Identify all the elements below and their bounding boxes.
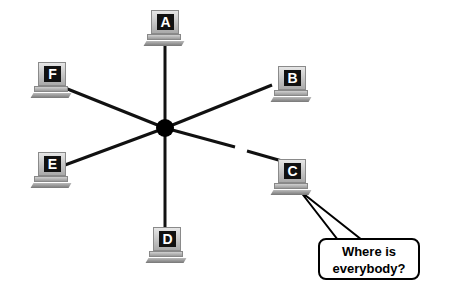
keyboard-icon <box>271 190 312 195</box>
base-icon <box>34 176 68 182</box>
hub-icon <box>156 119 174 137</box>
node-label: D <box>159 231 176 247</box>
node-label: E <box>44 156 61 172</box>
computer-b: B <box>272 66 312 106</box>
node-label: A <box>157 14 174 30</box>
computer-a: A <box>145 10 185 50</box>
monitor-icon: B <box>278 66 306 90</box>
node-label: C <box>284 163 301 179</box>
base-icon <box>149 251 183 257</box>
monitor-icon: D <box>153 227 181 251</box>
keyboard-icon <box>144 41 185 46</box>
keyboard-icon <box>31 93 72 98</box>
base-icon <box>274 183 308 189</box>
link-e <box>65 128 165 165</box>
base-icon <box>274 90 308 96</box>
keyboard-icon <box>31 183 72 188</box>
computer-d: D <box>147 227 187 267</box>
monitor-icon: E <box>38 152 66 176</box>
link-c-hub-segment <box>165 128 235 147</box>
monitor-icon: F <box>38 62 66 86</box>
callout-line-1: Where is <box>320 243 418 260</box>
link-b <box>165 85 272 128</box>
node-label: F <box>44 66 61 82</box>
star-topology-diagram: A B C D E F Where is everybody? <box>0 0 450 300</box>
keyboard-icon <box>271 97 312 102</box>
speech-bubble: Where is everybody? <box>318 238 420 280</box>
monitor-icon: A <box>151 10 179 34</box>
node-label: B <box>284 70 301 86</box>
base-icon <box>147 34 181 40</box>
link-f <box>65 88 165 128</box>
computer-e: E <box>32 152 72 192</box>
keyboard-icon <box>146 258 187 263</box>
base-icon <box>34 86 68 92</box>
computer-f: F <box>32 62 72 102</box>
monitor-icon: C <box>278 159 306 183</box>
computer-c: C <box>272 159 312 199</box>
callout-line-2: everybody? <box>320 260 418 277</box>
